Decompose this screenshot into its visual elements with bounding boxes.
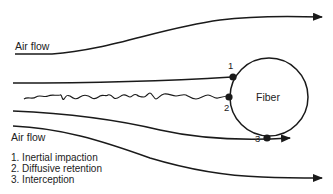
particle-2-dot (225, 93, 232, 100)
fiber-label: Fiber (256, 91, 280, 103)
legend: 1. Inertial impaction 2. Diffusive reten… (11, 152, 102, 185)
airflow-label-top: Air flow (15, 40, 50, 52)
fiber-filtration-diagram: Air flow Fiber 1 2 3 Air flow 1. Inertia… (0, 0, 333, 194)
brownian-path (24, 93, 229, 99)
particle-3-dot (263, 134, 270, 141)
streamline-impaction (13, 77, 232, 83)
legend-item-3: 3. Interception (11, 174, 74, 185)
streamline-top (15, 16, 322, 54)
marker-3-label: 3 (255, 133, 260, 144)
particle-1-dot (229, 73, 236, 80)
marker-1-label: 1 (228, 60, 233, 71)
airflow-label-bottom: Air flow (11, 131, 46, 143)
legend-item-1: 1. Inertial impaction (11, 152, 98, 163)
legend-item-2: 2. Diffusive retention (11, 163, 102, 174)
marker-2-label: 2 (224, 102, 229, 113)
